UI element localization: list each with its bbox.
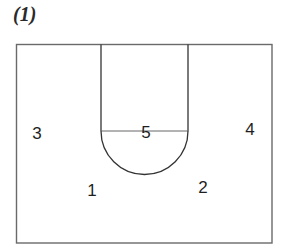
position-label-4: 4: [245, 121, 254, 138]
position-label-3: 3: [32, 125, 41, 142]
position-label-2: 2: [198, 179, 207, 196]
position-label-1: 1: [87, 182, 96, 199]
court-boundary: [17, 45, 273, 244]
position-label-5: 5: [141, 124, 150, 141]
